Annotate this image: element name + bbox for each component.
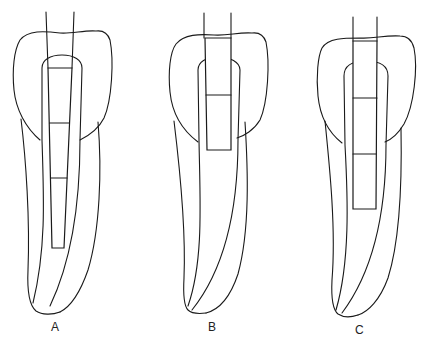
label-b: B: [208, 320, 216, 334]
label-c: C: [355, 323, 364, 337]
tooth-c-post: [353, 41, 377, 209]
label-a: A: [51, 320, 59, 334]
tooth-b-post: [205, 38, 231, 150]
tooth-b-root-right: [206, 122, 247, 313]
tooth-a-post: [48, 68, 72, 248]
tooth-diagram: A B C: [0, 0, 422, 343]
tooth-a: A: [13, 12, 112, 334]
tooth-c: C: [317, 17, 415, 337]
tooth-a-post-shank-right: [72, 12, 74, 68]
tooth-b: B: [169, 13, 268, 334]
tooth-b-root-left: [174, 121, 206, 314]
